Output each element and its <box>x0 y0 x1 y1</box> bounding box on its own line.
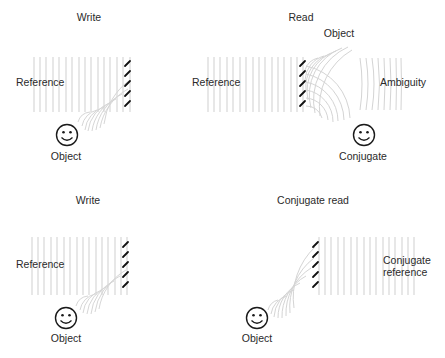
object-label: Object <box>242 332 272 344</box>
conjugate-reference-label-line1: Conjugate <box>383 254 431 266</box>
conjugate-reference-label-line2: reference <box>383 266 427 278</box>
panel-title-conjugate-read: Conjugate read <box>277 194 349 206</box>
panel-write-bottom <box>32 237 128 329</box>
reference-label: Reference <box>192 76 240 88</box>
panel-title-write-top: Write <box>77 11 101 23</box>
object-smiley-icon <box>247 308 268 329</box>
hologram-diagram <box>0 0 445 358</box>
conjugate-label: Conjugate <box>339 150 387 162</box>
panel-conjugate-read <box>247 237 415 329</box>
reference-label: Reference <box>16 76 64 88</box>
panel-write-top <box>34 57 130 146</box>
panel-title-read: Read <box>288 11 313 23</box>
panel-read <box>208 47 402 146</box>
ambiguity-label: Ambiguity <box>380 76 426 88</box>
object-smiley-icon <box>56 308 77 329</box>
object-label: Object <box>51 332 81 344</box>
object-wave-arcs <box>268 247 315 318</box>
reference-label: Reference <box>16 258 64 270</box>
conjugate-smiley-icon <box>354 125 375 146</box>
panel-title-write-bottom: Write <box>76 194 100 206</box>
object-smiley-icon <box>57 125 78 146</box>
object-label: Object <box>51 150 81 162</box>
object-label: Object <box>324 27 354 39</box>
